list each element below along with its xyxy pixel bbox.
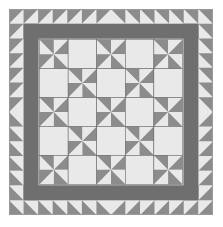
quilt-image — [9, 9, 213, 215]
dark-band-left — [24, 24, 39, 201]
plain-block — [125, 155, 154, 184]
plain-block — [68, 155, 97, 184]
dark-band-bottom — [24, 185, 199, 200]
plain-block — [68, 98, 97, 127]
plain-block — [97, 69, 126, 98]
quilt-svg — [9, 9, 213, 215]
dark-band-right — [183, 24, 198, 201]
plain-block — [68, 40, 97, 69]
plain-block — [154, 126, 183, 155]
dark-band-top — [24, 24, 199, 39]
plain-block — [40, 69, 69, 98]
plain-block — [97, 126, 126, 155]
plain-block — [125, 40, 154, 69]
plain-block — [125, 98, 154, 127]
plain-block — [40, 126, 69, 155]
plain-block — [154, 69, 183, 98]
